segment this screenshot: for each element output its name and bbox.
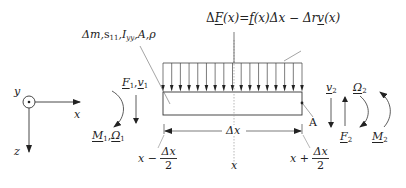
distributed-load <box>161 63 304 92</box>
omega2-label: Ω2 <box>353 82 367 95</box>
z-axis-label: z <box>14 146 20 157</box>
v2-label: v2 <box>326 82 337 95</box>
x-plus-half-dx-label: x + Δx2 <box>290 146 329 171</box>
m1-omega1-label: M1,Ω1 <box>92 130 125 143</box>
m1-moment-arrow <box>112 91 124 127</box>
load-equation: ΔF(x)=f(x)Δx − Δrv(x) <box>206 12 340 24</box>
properties-label: Δm,s11,Iyy,A,ρ <box>82 29 156 42</box>
m2-moment-arrow <box>380 92 390 127</box>
omega2-moment-arrow <box>360 96 368 127</box>
left-end-loads <box>112 91 136 127</box>
diagram-graphics <box>0 0 406 188</box>
f2-label: F2 <box>340 131 352 144</box>
point-a-marker <box>301 102 304 105</box>
x-axis-label: x <box>74 109 80 120</box>
y-axis-label: y <box>14 86 20 97</box>
load-arrows <box>161 63 304 92</box>
right-end-loads <box>331 92 390 127</box>
load-top-leader <box>284 51 301 61</box>
f1-v1-label: F1,v1 <box>122 77 148 90</box>
x-center-label: x <box>231 160 237 171</box>
properties-leader <box>140 46 170 104</box>
x-minus-half-dx-label: x − Δx2 <box>138 146 177 171</box>
beam-diagram: Δm,s11,Iyy,A,ρ ΔF(x)=f(x)Δx − Δrv(x) y x… <box>0 0 406 188</box>
dimension-label: Δx <box>225 125 241 136</box>
coordinate-axes <box>23 96 80 152</box>
point-a-label: A <box>309 117 317 128</box>
m2-label: M2 <box>372 131 388 144</box>
beam-element <box>163 92 302 115</box>
